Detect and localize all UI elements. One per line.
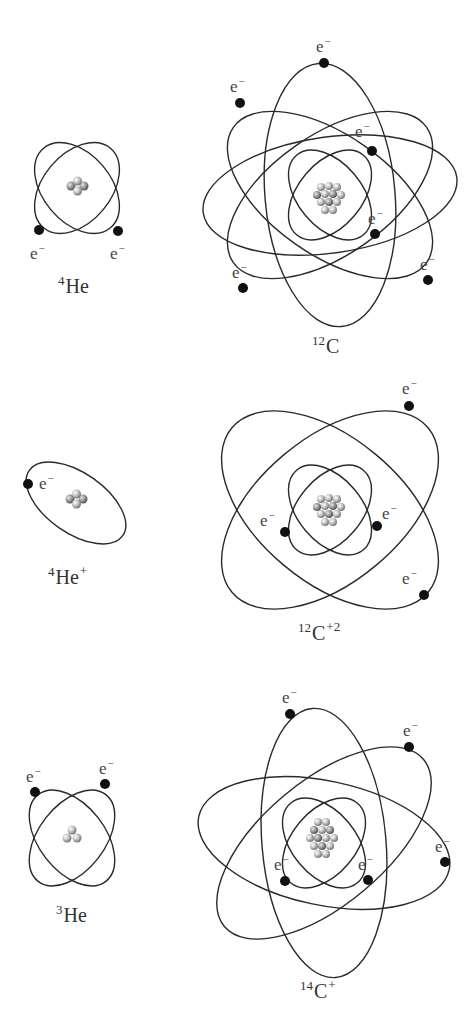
electron-label: e− [30, 243, 45, 262]
electron-label: e− [355, 121, 370, 140]
electron-icon [235, 98, 245, 108]
electron-label: e− [39, 473, 54, 492]
electron-label: e− [402, 568, 417, 587]
electron-icon [280, 876, 290, 886]
atom-caption-he4-plus: 4He+ [48, 564, 87, 587]
electron-icon [100, 779, 110, 789]
electron-label: e− [232, 262, 247, 281]
electron-icon [404, 401, 414, 411]
electron-label: e− [26, 766, 41, 785]
electron-icon [30, 787, 40, 797]
atom-he3: e− e− 3He [0, 750, 160, 940]
atom-c14-plus: e− e− e− e− e− 14C+ [190, 680, 473, 1023]
atom-caption-c12: 12C [312, 334, 339, 356]
electron-icon [280, 527, 290, 537]
atom-caption-c14-plus: 14C+ [300, 978, 336, 1001]
atom-caption-he4: 4He [58, 274, 89, 296]
nucleus-icon [313, 182, 345, 214]
orbit [12, 774, 132, 901]
electron-label: e− [99, 758, 114, 777]
atom-he4-plus: e− 4He+ [0, 440, 160, 610]
nucleus-icon [313, 494, 345, 526]
orbit [186, 373, 473, 648]
electron-label: e− [260, 510, 275, 529]
nucleus-icon [63, 826, 82, 843]
electron-icon [319, 58, 329, 68]
electron-label: e− [420, 254, 435, 273]
electron-label: e− [282, 687, 297, 706]
atom-he4: e− e− 4He [0, 0, 160, 300]
electron-label: e− [274, 854, 289, 873]
electron-label: e− [110, 243, 125, 262]
atom-c14-plus-diagram [190, 680, 473, 1023]
atom-caption-c12-plus2: 12C+2 [298, 620, 340, 643]
nucleus-icon [67, 177, 89, 196]
electron-icon [404, 742, 414, 752]
atom-c12-plus2: e− e− e− e− 12C+2 [190, 370, 473, 670]
electron-icon [113, 226, 123, 236]
electron-label: e− [368, 208, 383, 227]
electron-label: e− [402, 378, 417, 397]
electron-icon [370, 229, 380, 239]
atom-caption-he3: 3He [56, 903, 87, 925]
electron-icon [423, 275, 433, 285]
electron-icon [238, 283, 248, 293]
electron-icon [363, 875, 373, 885]
electron-icon [23, 479, 33, 489]
electron-label: e− [316, 36, 331, 55]
electron-label: e− [403, 720, 418, 739]
electron-icon [367, 146, 377, 156]
atom-c12: e− e− e− e− e− e− 12C [190, 0, 473, 370]
electron-label: e− [435, 836, 450, 855]
electron-icon [34, 225, 44, 235]
atom-he4-diagram [0, 0, 160, 300]
electron-icon [372, 521, 382, 531]
nucleus-icon [306, 818, 338, 858]
electron-icon [285, 709, 295, 719]
electron-label: e− [230, 76, 245, 95]
electron-label: e− [358, 854, 373, 873]
nucleus-icon [66, 490, 88, 509]
atom-c12-diagram [190, 0, 473, 370]
electron-icon [419, 590, 429, 600]
electron-icon [440, 857, 450, 867]
electron-label: e− [382, 503, 397, 522]
